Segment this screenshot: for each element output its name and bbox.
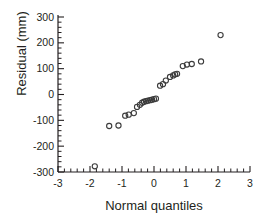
data-point xyxy=(131,111,136,116)
data-point-group xyxy=(92,32,223,168)
qq-plot-figure: Residual (mm) Normal quantiles -300-200-… xyxy=(0,0,265,222)
y-tick-label: 0 xyxy=(48,88,54,100)
data-point xyxy=(116,123,121,128)
x-tick-label: -3 xyxy=(53,177,62,189)
plot-canvas: -300-200-1000100200300 -3-2-10123 xyxy=(0,0,265,222)
axis-lines xyxy=(58,15,250,172)
data-point xyxy=(107,123,112,128)
y-tick-label: -100 xyxy=(33,114,54,126)
y-tick-label: -300 xyxy=(33,166,54,178)
y-axis-ticks xyxy=(58,17,64,172)
x-axis-ticks xyxy=(58,166,250,172)
data-point xyxy=(126,112,131,117)
data-point xyxy=(123,113,128,118)
x-tick-label: -2 xyxy=(85,177,94,189)
x-axis-tick-labels: -3-2-10123 xyxy=(53,177,253,189)
y-tick-label: 100 xyxy=(36,62,54,74)
y-tick-label: 300 xyxy=(36,11,54,23)
data-point xyxy=(218,32,223,37)
x-tick-label: 2 xyxy=(215,177,221,189)
y-tick-label: -200 xyxy=(33,140,54,152)
data-point xyxy=(92,164,97,169)
x-tick-label: 1 xyxy=(183,177,189,189)
y-tick-label: 200 xyxy=(36,36,54,48)
data-point xyxy=(198,59,203,64)
x-tick-label: 3 xyxy=(247,177,253,189)
x-tick-label: -1 xyxy=(117,177,126,189)
y-axis-tick-labels: -300-200-1000100200300 xyxy=(33,11,54,178)
x-tick-label: 0 xyxy=(151,177,157,189)
